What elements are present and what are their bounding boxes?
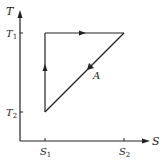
y-axis-arrow-icon [18, 10, 23, 18]
x-axis-arrow-icon [142, 139, 150, 144]
path-label-a: A [92, 70, 100, 81]
x-axis-label: S [152, 135, 160, 148]
cycle-path [45, 33, 124, 112]
axes [20, 16, 144, 141]
y-axis-label: T [6, 5, 15, 18]
tick-label-s2: S2 [119, 146, 130, 159]
diagram-canvas: T S T1 T2 S1 S2 A [0, 0, 164, 167]
tick-label-t2: T2 [6, 107, 17, 120]
edge-path-a [45, 33, 124, 112]
tick-label-t1: T1 [6, 28, 17, 41]
tick-label-s1: S1 [40, 146, 51, 159]
arrow-up-icon [43, 64, 48, 71]
ts-diagram: T S T1 T2 S1 S2 A [0, 0, 164, 167]
arrow-right-icon [79, 31, 86, 36]
